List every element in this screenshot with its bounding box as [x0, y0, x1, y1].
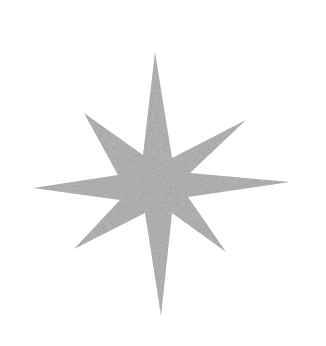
image-canvas — [0, 0, 326, 346]
star-icon — [33, 52, 290, 316]
star-graphic — [0, 0, 326, 346]
